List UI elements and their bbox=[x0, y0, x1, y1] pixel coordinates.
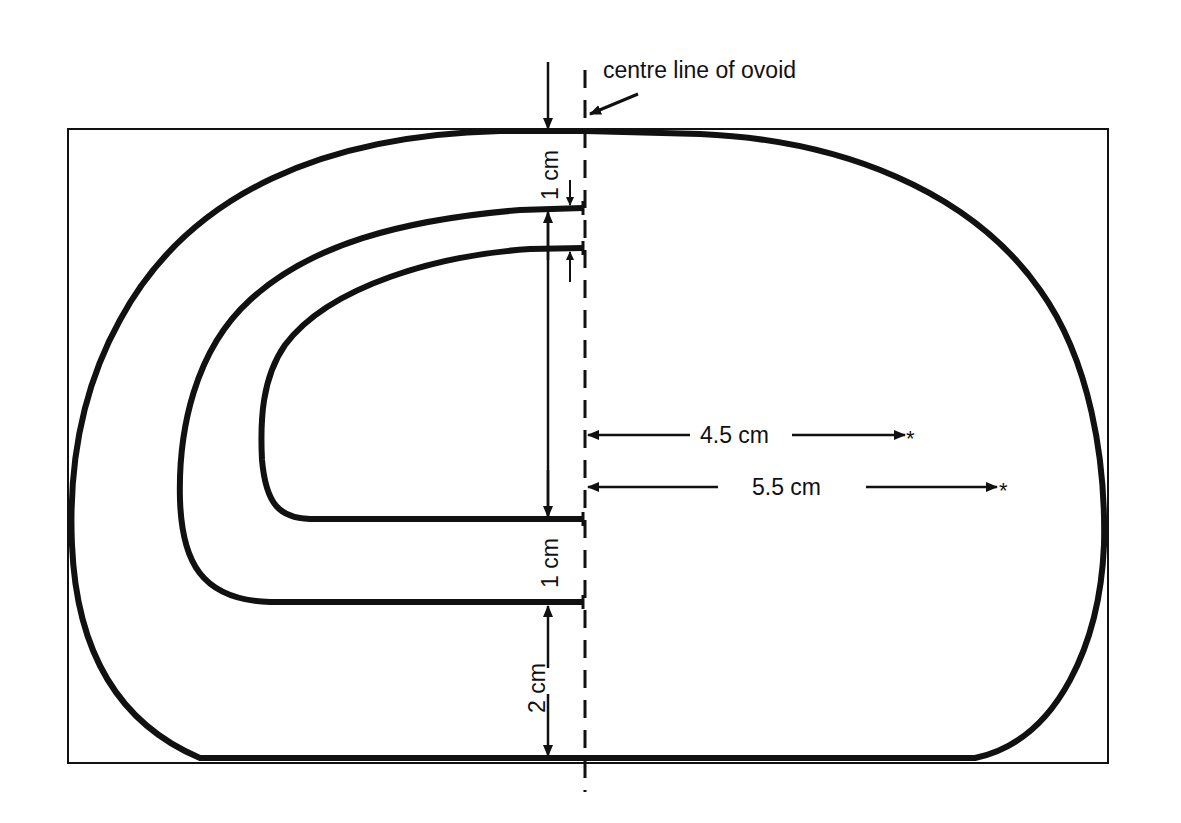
outer-radius-label: 5.5 cm bbox=[752, 474, 821, 500]
inner-radius-label: 4.5 cm bbox=[700, 422, 769, 448]
bottom-gap-label: 2 cm bbox=[524, 663, 550, 713]
centre-line-label: centre line of ovoid bbox=[603, 57, 796, 83]
top-gap-label: 1 cm bbox=[537, 150, 563, 200]
centre-line-pointer-arrow bbox=[590, 94, 638, 114]
middle-gap-label: 1 cm bbox=[537, 538, 563, 588]
ovoid-diagram: centre line of ovoid 1 cm 1 cm 2 cm 4.5 … bbox=[0, 0, 1181, 823]
inner-contour bbox=[261, 248, 583, 519]
outer-radius-end-marker: * bbox=[999, 478, 1008, 503]
outer-ovoid bbox=[71, 131, 1104, 758]
middle-contour bbox=[180, 208, 583, 602]
inner-radius-end-marker: * bbox=[906, 426, 915, 451]
bounding-box bbox=[68, 129, 1108, 763]
